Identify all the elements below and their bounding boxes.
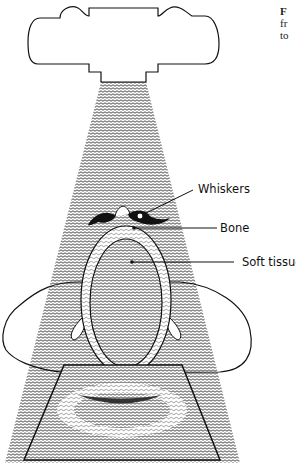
bone-label: Bone	[220, 221, 249, 235]
caption-fragment-2: fr	[280, 17, 287, 29]
caption-fragment-1: F	[280, 5, 287, 17]
whisker-pointer-dot	[137, 213, 143, 219]
caption-fragment-3: to	[280, 29, 289, 41]
soft-tissue-label: Soft tissue	[242, 255, 296, 269]
xray-tube	[28, 7, 219, 82]
whiskers-label: Whiskers	[198, 182, 250, 196]
soft-tissue	[90, 239, 162, 367]
xray-diagram	[0, 0, 296, 463]
